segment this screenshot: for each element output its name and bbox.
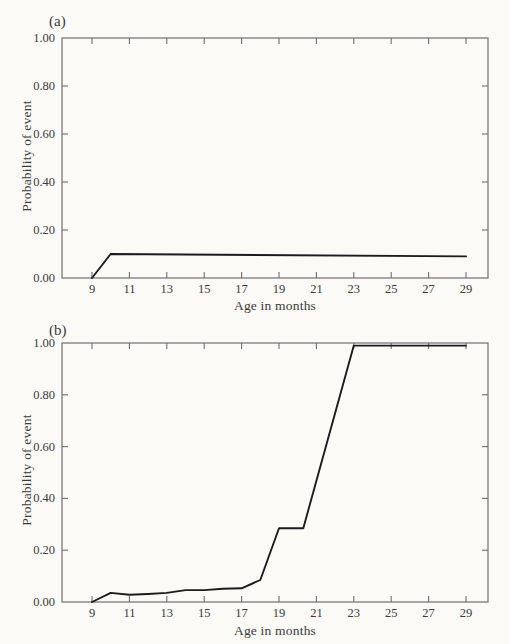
y-tick-label: 0.80 <box>33 79 55 93</box>
x-tick-label: 21 <box>310 606 323 620</box>
y-tick-label: 1.00 <box>33 336 55 350</box>
panel-b-x-axis-title: Age in months <box>62 623 488 639</box>
x-tick-label: 15 <box>198 606 211 620</box>
panel-a-x-axis-title: Age in months <box>62 298 488 314</box>
y-tick-label: 0.40 <box>33 175 55 189</box>
series-line-probability-of-event <box>92 346 466 602</box>
x-tick-label: 29 <box>460 282 473 296</box>
figure-page: (a) Probability of event 911131517192123… <box>0 0 509 644</box>
y-tick-label: 1.00 <box>33 31 55 45</box>
plot-box <box>62 38 488 278</box>
x-tick-label: 25 <box>385 282 398 296</box>
y-tick-label: 0.20 <box>33 223 55 237</box>
y-tick-label: 0.20 <box>33 543 55 557</box>
x-tick-label: 21 <box>310 282 323 296</box>
x-tick-label: 25 <box>385 606 398 620</box>
y-tick-label: 0.60 <box>33 127 55 141</box>
y-tick-label: 0.80 <box>33 388 55 402</box>
y-tick-label: 0.00 <box>33 595 55 609</box>
x-tick-label: 9 <box>89 606 95 620</box>
x-tick-label: 27 <box>422 282 435 296</box>
panel-a-chart: 9111315171921232527290.000.200.400.600.8… <box>0 0 509 322</box>
x-tick-label: 13 <box>161 606 174 620</box>
y-tick-label: 0.00 <box>33 271 55 285</box>
x-tick-label: 23 <box>348 606 361 620</box>
x-tick-label: 29 <box>460 606 473 620</box>
x-tick-label: 23 <box>348 282 361 296</box>
x-tick-label: 27 <box>422 606 435 620</box>
panel-b-chart: 9111315171921232527290.000.200.400.600.8… <box>0 322 509 644</box>
x-tick-label: 17 <box>235 606 248 620</box>
x-tick-label: 9 <box>89 282 95 296</box>
x-tick-label: 19 <box>273 282 286 296</box>
panel-b: (b) Probability of event 911131517192123… <box>0 322 509 644</box>
x-tick-label: 11 <box>123 282 135 296</box>
y-tick-label: 0.40 <box>33 491 55 505</box>
x-tick-label: 17 <box>235 282 248 296</box>
x-tick-label: 11 <box>123 606 135 620</box>
x-tick-label: 15 <box>198 282 211 296</box>
plot-box <box>62 343 488 602</box>
panel-a: (a) Probability of event 911131517192123… <box>0 0 509 322</box>
x-tick-label: 13 <box>161 282 174 296</box>
x-tick-label: 19 <box>273 606 286 620</box>
y-tick-label: 0.60 <box>33 440 55 454</box>
